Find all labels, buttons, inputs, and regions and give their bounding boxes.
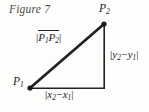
abs-bar-close: | xyxy=(59,31,61,43)
point-label-p2-base: P xyxy=(99,2,106,14)
point-label-p2: P2 xyxy=(99,3,110,15)
segment-p1-subscript: 1 xyxy=(45,37,49,45)
y1-base: y xyxy=(128,48,133,60)
minus-operator: − xyxy=(121,48,128,60)
vertical-leg-length-label: |y2−y1| xyxy=(110,49,138,60)
point-label-p1: P1 xyxy=(13,76,24,88)
figure-caption: Figure 7 xyxy=(9,3,50,15)
abs-bar-close: | xyxy=(136,48,138,60)
point-p1-dot xyxy=(27,85,32,90)
horizontal-leg-length-label: |x2−x1| xyxy=(45,89,73,100)
point-label-p1-base: P xyxy=(13,75,20,87)
minus-operator: − xyxy=(56,88,63,100)
point-p2-dot xyxy=(101,21,106,26)
abs-bar-close: | xyxy=(71,88,73,100)
hypotenuse-length-label: |P1P2| xyxy=(36,29,61,43)
point-label-p2-subscript: 2 xyxy=(106,7,110,16)
x1-base: x xyxy=(63,88,68,100)
segment-overline: P1P2 xyxy=(38,30,59,43)
point-label-p1-subscript: 1 xyxy=(20,80,24,89)
x2-subscript: 2 xyxy=(52,94,56,102)
y2-subscript: 2 xyxy=(117,54,121,62)
figure-container: Figure 7 P2 P1 |P1P2| |y2−y1| |x2−x1| xyxy=(0,0,149,112)
x1-subscript: 1 xyxy=(68,94,72,102)
segment-p2-subscript: 2 xyxy=(55,37,59,45)
y1-subscript: 1 xyxy=(133,54,137,62)
segment-p1-base: P xyxy=(38,31,45,43)
